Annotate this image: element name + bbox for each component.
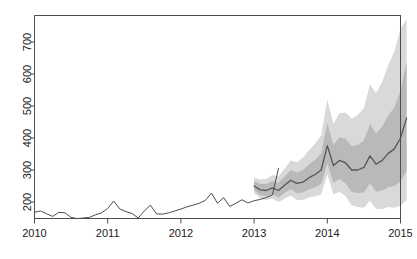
forecast-chart: 200300400500600700 201020112012201320142… [0,0,417,259]
y-tick-label: 300 [21,161,33,179]
x-tick-label: 2013 [242,227,266,239]
y-tick-label: 700 [21,33,33,51]
y-tick-label: 500 [21,97,33,115]
y-tick-label: 400 [21,129,33,147]
x-tick-label: 2010 [22,227,46,239]
x-tick-label: 2014 [315,227,339,239]
chart-canvas: 200300400500600700 201020112012201320142… [0,0,417,259]
x-tick-label: 2011 [96,227,120,239]
x-tick-label: 2012 [169,227,193,239]
y-tick-label: 200 [21,193,33,211]
y-tick-label: 600 [21,65,33,83]
x-tick-label: 2015 [388,227,412,239]
